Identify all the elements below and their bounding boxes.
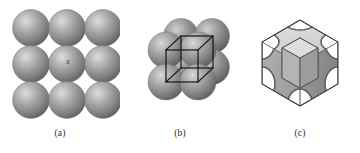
panel-a: x (a) [0, 0, 120, 153]
sphere-grid-row-top [13, 10, 120, 47]
sphere [13, 46, 50, 83]
sphere [49, 82, 86, 119]
sphere-array-diagram: x [0, 0, 120, 126]
solid-unit-cell-svg [240, 0, 360, 126]
sphere [49, 10, 86, 47]
sphere [85, 10, 120, 47]
unit-cell-wireframe-svg [120, 0, 240, 126]
sphere-array-svg [0, 0, 120, 126]
sphere-center [49, 46, 86, 83]
sphere [85, 82, 120, 119]
panel-caption-b: (b) [120, 126, 240, 140]
solid-unit-cell-diagram [240, 0, 360, 126]
panel-caption-a: (a) [0, 126, 120, 140]
panel-caption-c: (c) [240, 126, 360, 140]
sphere-grid-row-middle [13, 46, 120, 83]
cell-center-solid [282, 38, 318, 88]
sphere [85, 46, 120, 83]
unit-cell-wireframe-diagram [120, 0, 240, 126]
panel-c: (c) [240, 0, 360, 153]
sphere-grid-row-bottom [13, 82, 120, 119]
sphere [13, 10, 50, 47]
figure-root: x (a) [0, 0, 360, 153]
panel-b: (b) [120, 0, 240, 153]
sphere [13, 82, 50, 119]
